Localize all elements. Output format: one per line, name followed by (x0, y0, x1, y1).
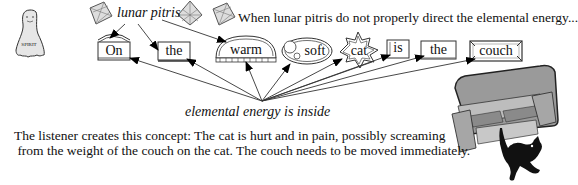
crystal-icon (213, 3, 235, 25)
top-caption: When lunar pitris do not properly direct… (238, 10, 578, 26)
word-the-2: the (421, 42, 456, 58)
lunar-pitris-label: lunar pitris (117, 5, 180, 21)
elemental-energy-label: elemental energy is inside (185, 104, 330, 120)
spirit-label: SPIRIT (14, 42, 44, 47)
spirit-icon (16, 10, 44, 57)
word-the-1: the (158, 43, 190, 59)
word-is: is (387, 40, 409, 56)
word-soft: soft (298, 43, 332, 59)
concept-line-1: The listener creates this concept: The c… (14, 128, 484, 143)
word-warm: warm (216, 42, 276, 58)
word-on: On (98, 43, 130, 59)
crystal-icon (178, 1, 202, 25)
concept-line-2: from the weight of the couch on the cat.… (14, 143, 484, 158)
word-couch: couch (470, 43, 522, 59)
crystal-icon (90, 2, 112, 24)
concept-text: The listener creates this concept: The c… (14, 128, 484, 158)
word-cat: cat (344, 43, 374, 59)
